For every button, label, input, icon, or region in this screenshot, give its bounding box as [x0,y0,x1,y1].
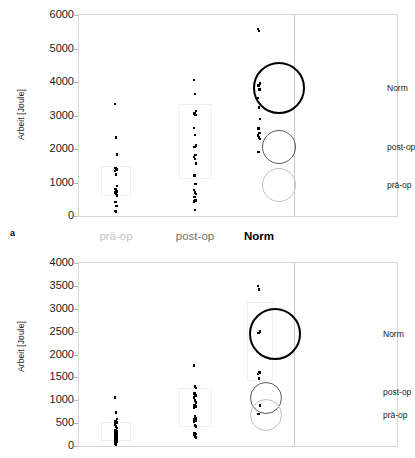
data-point [195,436,198,439]
y-tick-label: 500 [56,417,74,428]
y-tick-label: 1000 [50,394,74,405]
x-axis-label-norm: Norm [244,230,274,242]
legend-label: Norm [387,84,408,93]
data-point [115,205,118,208]
data-point [258,106,261,109]
y-tick-label: 3000 [50,303,74,314]
legend-circle-postop [262,130,296,164]
data-point [193,420,196,423]
data-point [258,377,261,380]
y-tick-label: 2000 [50,143,74,154]
plot-area-a [78,14,398,217]
legend-label: prä-op [387,181,412,190]
y-axis-title-b: Arbeit [Joule] [16,321,26,372]
data-point [194,114,197,117]
legend-divider [294,263,295,446]
legend-circle-prop [262,168,296,202]
panel-b: Arbeit [Joule] 0500100015002000250030003… [0,252,412,458]
data-point [258,30,261,33]
data-point [115,210,118,213]
data-point [193,79,196,82]
data-point [115,136,118,139]
data-point [259,138,262,141]
y-tick-label: 1500 [50,371,74,382]
data-point [195,401,198,404]
data-point [257,373,260,376]
data-point [194,158,197,161]
data-point [195,387,198,390]
data-point [193,127,196,130]
data-point [193,196,196,199]
plot-inner-a [79,15,397,216]
legend-label: Norm [383,330,404,339]
plot-inner-b [79,263,397,446]
data-point [259,118,262,121]
data-point [193,407,196,410]
data-point [194,134,197,137]
data-point [114,103,117,106]
data-point [116,194,119,197]
data-point [115,411,118,414]
x-axis-label-post: post-op [176,230,214,242]
data-point [193,146,196,149]
y-tick-label: 2000 [50,349,74,360]
y-tick-labels-a: 0100020003000400050006000 [40,0,74,217]
data-point [194,93,197,96]
plot-area-b [78,262,398,447]
legend-circle-norm [249,308,301,360]
y-tick-label: 2500 [50,326,74,337]
y-tick-label: 3000 [50,110,74,121]
y-tick-labels-b: 05001000150020002500300035004000 [40,252,74,447]
y-tick-label: 5000 [50,43,74,54]
data-point [114,170,117,173]
legend-label: post-op [387,143,415,152]
x-axis-label-pre: prä-op [99,230,132,242]
data-point [195,162,198,165]
data-point [257,285,260,288]
y-axis-title-a: Arbeit [Joule] [16,89,26,140]
legend-label: post-op [383,388,411,397]
data-point [193,200,196,203]
data-point [114,201,117,204]
data-point [115,173,118,176]
legend-circle-prop [250,399,282,431]
panel-letter-a: a [10,228,15,238]
data-point [116,185,119,188]
data-point [258,288,261,291]
data-point [257,151,260,154]
data-point [193,364,196,367]
data-point [116,153,119,156]
data-point [193,174,196,177]
y-tick-label: 6000 [50,9,74,20]
y-tick-label: 3500 [50,280,74,291]
data-point [115,443,118,446]
y-tick-label: 1000 [50,177,74,188]
y-tick-label: 4000 [50,257,74,268]
data-point [194,209,197,212]
data-point [114,396,117,399]
panel-a: Arbeit [Joule] 0100020003000400050006000… [0,0,412,252]
data-point [257,127,260,130]
y-tick-label: 4000 [50,76,74,87]
legend-label: prä-op [383,411,408,420]
data-point [195,425,198,428]
data-point [194,183,197,186]
legend-circle-norm [253,62,305,114]
